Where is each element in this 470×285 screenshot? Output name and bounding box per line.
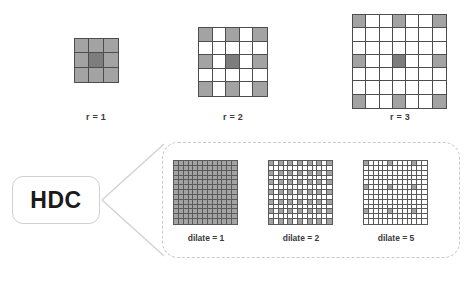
- hdc-caption-dilate-5: dilate = 5: [360, 233, 432, 243]
- grid-cell: [240, 55, 254, 69]
- grid-cell: [240, 82, 254, 96]
- grid-cell: [253, 82, 267, 96]
- grid-cell: [406, 95, 419, 108]
- grid-cell: [226, 42, 240, 56]
- grid-cell: [353, 15, 366, 28]
- grid-cell: [199, 42, 213, 56]
- grid-cell: [75, 53, 89, 67]
- grid-cell: [353, 42, 366, 55]
- grid-cell: [213, 69, 227, 83]
- grid-cell: [393, 81, 406, 94]
- grid-cell: [422, 219, 427, 224]
- kernel-grid-r3: [352, 14, 447, 109]
- grid-cell: [104, 68, 118, 82]
- grid-cell: [240, 28, 254, 42]
- grid-cell: [366, 81, 379, 94]
- grid-cell: [406, 28, 419, 41]
- grid-cell: [406, 15, 419, 28]
- grid-cell: [380, 15, 393, 28]
- grid-cell: [226, 82, 240, 96]
- grid-cell: [199, 55, 213, 69]
- grid-cell: [75, 68, 89, 82]
- grid-cell: [353, 95, 366, 108]
- grid-cell: [240, 69, 254, 83]
- grid-cell: [366, 42, 379, 55]
- grid-cell: [433, 55, 446, 68]
- grid-cell: [213, 82, 227, 96]
- grid-cell: [353, 81, 366, 94]
- grid-cell: [406, 55, 419, 68]
- grid-cell: [253, 69, 267, 83]
- grid-cell: [253, 28, 267, 42]
- hdc-block: HDC: [12, 176, 100, 224]
- grid-cell: [406, 81, 419, 94]
- kernel-grid-r1: [74, 38, 119, 83]
- grid-cell: [419, 55, 432, 68]
- grid-cell: [406, 42, 419, 55]
- grid-cell: [232, 219, 237, 224]
- grid-cell: [380, 68, 393, 81]
- grid-cell: [226, 28, 240, 42]
- grid-cell: [393, 42, 406, 55]
- grid-cell: [213, 42, 227, 56]
- grid-cell: [327, 219, 332, 224]
- kernel-caption-r3: r = 3: [370, 112, 430, 122]
- hdc-grid-dilate-5: [363, 160, 428, 225]
- grid-cell: [104, 39, 118, 53]
- grid-cell: [433, 95, 446, 108]
- grid-cell: [393, 95, 406, 108]
- grid-cell: [419, 15, 432, 28]
- grid-cell: [213, 55, 227, 69]
- grid-cell: [433, 28, 446, 41]
- grid-cell: [433, 15, 446, 28]
- kernel-caption-r1: r = 1: [66, 112, 126, 122]
- grid-cell: [226, 69, 240, 83]
- grid-cell: [366, 28, 379, 41]
- grid-cell: [89, 39, 103, 53]
- grid-cell: [380, 95, 393, 108]
- grid-cell: [406, 68, 419, 81]
- grid-cell: [253, 55, 267, 69]
- grid-cell: [199, 82, 213, 96]
- grid-cell: [380, 81, 393, 94]
- grid-cell: [240, 42, 254, 56]
- grid-cell: [419, 28, 432, 41]
- hdc-grid-dilate-2: [268, 160, 333, 225]
- grid-cell: [353, 68, 366, 81]
- grid-cell: [353, 55, 366, 68]
- hdc-grid-dilate-1: [173, 160, 238, 225]
- grid-cell: [89, 53, 103, 67]
- kernel-grid-r2: [198, 27, 268, 97]
- grid-cell: [213, 28, 227, 42]
- kernel-caption-r2: r = 2: [203, 112, 263, 122]
- grid-cell: [393, 68, 406, 81]
- grid-cell: [393, 15, 406, 28]
- grid-cell: [419, 95, 432, 108]
- grid-cell: [199, 28, 213, 42]
- grid-cell: [199, 69, 213, 83]
- grid-cell: [433, 81, 446, 94]
- grid-cell: [380, 55, 393, 68]
- grid-cell: [419, 68, 432, 81]
- grid-cell: [89, 68, 103, 82]
- hdc-connector-lines: [98, 142, 166, 258]
- grid-cell: [104, 53, 118, 67]
- grid-cell: [393, 55, 406, 68]
- grid-cell: [366, 95, 379, 108]
- grid-cell: [226, 55, 240, 69]
- grid-cell: [393, 28, 406, 41]
- grid-cell: [419, 42, 432, 55]
- grid-cell: [366, 15, 379, 28]
- grid-cell: [75, 39, 89, 53]
- grid-cell: [433, 68, 446, 81]
- grid-cell: [419, 81, 432, 94]
- hdc-caption-dilate-1: dilate = 1: [170, 233, 242, 243]
- grid-cell: [366, 55, 379, 68]
- grid-cell: [433, 42, 446, 55]
- grid-cell: [380, 28, 393, 41]
- grid-cell: [353, 28, 366, 41]
- hdc-caption-dilate-2: dilate = 2: [265, 233, 337, 243]
- grid-cell: [366, 68, 379, 81]
- hdc-block-label: HDC: [30, 187, 81, 214]
- grid-cell: [253, 42, 267, 56]
